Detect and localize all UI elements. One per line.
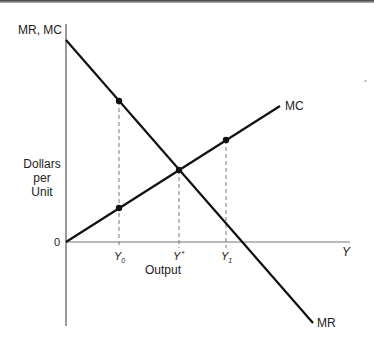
y-axis-label-line3: Unit <box>31 185 53 199</box>
x-axis-title: Output <box>145 263 182 277</box>
origin-label: 0 <box>54 236 60 248</box>
y0-label: Y0 <box>114 250 125 264</box>
mr-label: MR <box>317 316 336 330</box>
y-axis-label-line2: per <box>33 171 50 185</box>
point-mc-y1 <box>223 137 229 143</box>
point-mc-y0 <box>116 205 122 211</box>
x-axis-end-label: Y <box>342 245 351 259</box>
point-mr-y0 <box>116 98 122 104</box>
mr-mc-diagram: MR, MC Dollars per Unit 0 MC MR Y0 Y* Y1… <box>0 0 374 346</box>
ystar-label: Y* <box>173 249 185 262</box>
mc-label: MC <box>285 99 304 113</box>
point-equilibrium <box>176 167 182 173</box>
mc-curve <box>66 106 280 242</box>
y-axis-top-label: MR, MC <box>18 23 62 37</box>
mr-curve <box>66 40 313 323</box>
y1-label: Y1 <box>221 250 232 264</box>
y-axis-label-line1: Dollars <box>23 157 60 171</box>
